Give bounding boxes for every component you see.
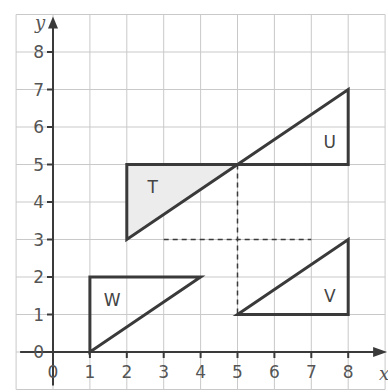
coordinate-grid: 012345678012345678xyTUVW: [0, 0, 388, 392]
x-tick-label: 2: [121, 362, 132, 382]
shape-label-t: T: [146, 177, 158, 197]
x-axis-label: x: [379, 363, 388, 384]
x-tick-label: 6: [269, 362, 280, 382]
shape-label-v: V: [324, 286, 336, 306]
y-tick-label: 8: [33, 42, 44, 62]
axes: [20, 17, 387, 386]
x-tick-label: 7: [306, 362, 317, 382]
y-tick-label: 1: [33, 305, 44, 325]
x-tick-label: 3: [158, 362, 169, 382]
y-tick-label: 4: [33, 192, 44, 212]
y-tick-label: 2: [33, 267, 44, 287]
x-tick-label: 0: [48, 362, 59, 382]
x-tick-label: 1: [84, 362, 95, 382]
y-tick-label: 0: [33, 342, 44, 362]
labels: 012345678012345678xyTUVW: [33, 12, 388, 385]
x-tick-label: 8: [343, 362, 354, 382]
shape-label-w: W: [104, 290, 121, 310]
y-tick-label: 6: [33, 117, 44, 137]
x-tick-label: 5: [232, 362, 243, 382]
y-tick-label: 7: [33, 80, 44, 100]
shapes: [90, 90, 348, 353]
y-tick-label: 5: [33, 155, 44, 175]
x-tick-label: 4: [195, 362, 206, 382]
grid-lines: [16, 15, 385, 390]
shape-label-u: U: [324, 132, 336, 152]
y-axis-arrow-icon: [48, 17, 58, 29]
y-axis-label: y: [34, 12, 46, 33]
y-tick-label: 3: [33, 230, 44, 250]
